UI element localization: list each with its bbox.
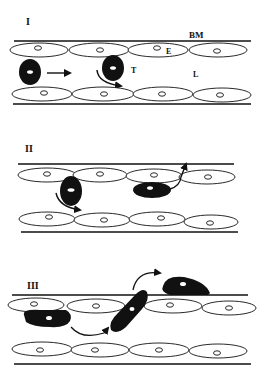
endothelium-bottom [12, 87, 251, 102]
endothelial-cell [129, 212, 185, 226]
endothelium-top [18, 168, 235, 184]
leukocyte-migration-diagram: I BM E T L [0, 0, 273, 384]
t-cell-adhered [60, 176, 82, 206]
t-cell-extravasated [162, 277, 210, 295]
migration-arrow [133, 273, 160, 290]
t-cell-rolling [102, 55, 124, 81]
panel-2: II [18, 143, 238, 232]
label-basement-membrane: BM [189, 30, 204, 40]
panel-label-2: II [25, 143, 33, 154]
migration-arrow [71, 327, 108, 335]
label-lumen: L [193, 70, 198, 79]
label-t-cell: T [131, 66, 137, 75]
panel-1: I BM E T L [10, 16, 251, 104]
endothelium-top [10, 43, 247, 57]
endothelial-cell [71, 343, 129, 357]
panel-label-1: I [26, 16, 30, 27]
panel-3: III [8, 273, 256, 364]
endothelium-bottom [19, 212, 238, 229]
t-cell-spread [133, 182, 171, 198]
t-cell-flowing [19, 59, 41, 85]
panel-label-3: III [27, 280, 39, 291]
label-endothelium: E [166, 47, 171, 56]
endothelium-bottom [12, 342, 247, 358]
